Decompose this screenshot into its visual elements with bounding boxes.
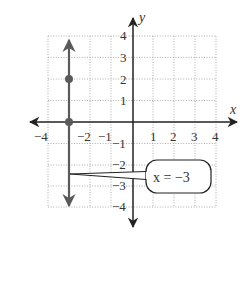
x-tick-label: 2 (170, 129, 177, 144)
y-tick-label: 4 (120, 28, 127, 43)
x-tick-label: −4 (34, 129, 48, 144)
y-tick-label: −3 (112, 178, 126, 193)
x-tick-label: 3 (191, 129, 198, 144)
y-tick-label: −1 (112, 136, 126, 151)
y-tick-label: −4 (112, 199, 126, 214)
callout-label: x = −3 (153, 170, 190, 185)
point-neg3-2 (65, 75, 73, 83)
point-neg3-0 (65, 118, 73, 126)
y-tick-label: −2 (112, 157, 126, 172)
y-tick-label: 2 (120, 72, 127, 87)
y-tick-label: 1 (120, 93, 127, 108)
equation-callout: x = −3 (70, 160, 211, 193)
x-tick-label: −1 (98, 129, 112, 144)
x-tick-label: 1 (150, 129, 157, 144)
y-tick-labels: 4 3 2 1 −1 −2 −3 −4 (112, 28, 127, 214)
x-tick-labels: −4 −2 −1 1 2 3 4 (34, 129, 219, 144)
x-tick-label: −2 (77, 129, 91, 144)
callout-pointer (70, 172, 146, 180)
x-axis-label: x (229, 102, 237, 117)
x-tick-label: 4 (212, 129, 219, 144)
coordinate-graph: x y −4 −2 −1 1 2 3 4 4 3 2 1 −1 −2 −3 −4… (0, 0, 250, 285)
y-tick-label: 3 (120, 50, 127, 65)
y-axis-label: y (137, 10, 146, 25)
